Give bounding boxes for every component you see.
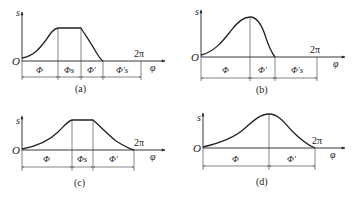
segment-label: Φs <box>77 154 88 164</box>
displacement-curve <box>22 120 134 150</box>
s-axis-label: s <box>16 7 20 18</box>
phi-axis-label: φ <box>150 62 156 73</box>
phi-axis-label: φ <box>330 149 336 160</box>
segment-label: Φ <box>222 65 229 75</box>
panel-b: s O 2π φ Φ Φ′ Φ′s (b) <box>191 6 345 96</box>
cam-displacement-diagrams: s O 2π φ Φ Φs Φ′ Φ′s (a) s O 2π φ Φ Φ′ Φ… <box>0 0 356 200</box>
panel-caption: (a) <box>75 83 86 95</box>
two-pi-label: 2π <box>134 48 144 59</box>
segment-label: Φs <box>64 65 75 75</box>
origin-label: O <box>191 51 199 63</box>
panel-caption: (b) <box>256 84 268 96</box>
s-axis-label: s <box>197 112 201 123</box>
segment-label: Φ′ <box>109 154 119 164</box>
displacement-curve <box>203 114 315 148</box>
two-pi-label: 2π <box>310 44 320 55</box>
panel-c: s O 2π φ Φ Φs Φ′ (c) <box>12 115 165 189</box>
panel-caption: (c) <box>74 177 85 189</box>
displacement-curve <box>201 17 275 57</box>
panel-caption: (d) <box>256 176 268 188</box>
panel-d: s O 2π φ Φ Φ′ (d) <box>193 112 345 188</box>
origin-label: O <box>193 142 201 154</box>
two-pi-label: 2π <box>134 137 144 148</box>
segment-label: Φ <box>36 65 43 75</box>
s-axis-label: s <box>16 115 20 126</box>
segment-label: Φ′s <box>291 65 304 75</box>
two-pi-label: 2π <box>312 135 322 146</box>
origin-label: O <box>12 55 20 67</box>
segment-label: Φ <box>232 154 239 164</box>
phi-axis-label: φ <box>150 151 156 162</box>
panel-a: s O 2π φ Φ Φs Φ′ Φ′s (a) <box>12 7 165 95</box>
segment-label: Φ′s <box>116 65 129 75</box>
segment-label: Φ <box>43 154 50 164</box>
displacement-curve <box>22 28 103 61</box>
segment-label: Φ′ <box>258 65 268 75</box>
segment-label: Φ′ <box>287 154 297 164</box>
origin-label: O <box>12 144 20 156</box>
segment-label: Φ′ <box>87 65 97 75</box>
phi-axis-label: φ <box>333 58 339 69</box>
s-axis-label: s <box>195 6 199 17</box>
